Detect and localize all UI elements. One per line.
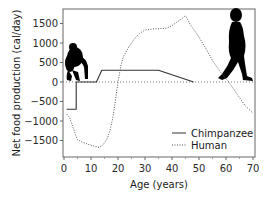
human-silhouette-icon — [218, 8, 253, 81]
chimpanzee-silhouette-icon — [65, 43, 88, 81]
x-tick-label: 50 — [193, 163, 206, 174]
y-axis-label: Net food production (cal/day) — [11, 9, 22, 156]
y-tick-label: 1500 — [33, 18, 58, 29]
x-axis-ticks: 010203040506070 — [61, 157, 260, 174]
chart: 150010005000−500−1000−1500 0102030405060… — [0, 0, 272, 197]
legend-label-chimpanzee: Chimpanzee — [191, 128, 253, 139]
x-tick-label: 60 — [220, 163, 233, 174]
y-tick-label: 500 — [39, 57, 58, 68]
y-tick-label: 1000 — [33, 38, 58, 49]
y-tick-label: −1500 — [24, 135, 58, 146]
x-tick-label: 70 — [247, 163, 260, 174]
legend-label-human: Human — [191, 140, 227, 151]
x-tick-label: 20 — [112, 163, 125, 174]
y-tick-label: −500 — [31, 96, 58, 107]
y-tick-label: 0 — [52, 77, 58, 88]
legend: Chimpanzee Human — [172, 128, 253, 151]
x-tick-label: 30 — [139, 163, 152, 174]
y-tick-label: −1000 — [24, 116, 58, 127]
x-tick-label: 0 — [61, 163, 67, 174]
x-tick-label: 10 — [85, 163, 98, 174]
x-axis-label: Age (years) — [130, 179, 188, 190]
y-axis-ticks: 150010005000−500−1000−1500 — [24, 18, 63, 146]
x-tick-label: 40 — [166, 163, 179, 174]
